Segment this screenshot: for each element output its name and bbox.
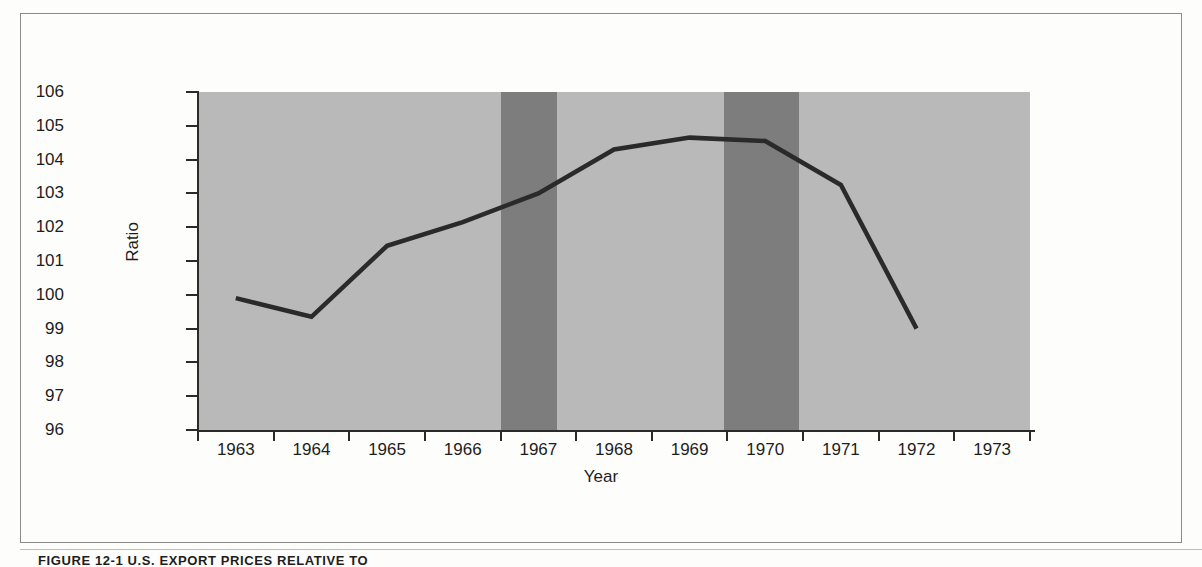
chart-figure: 96979899100101102103104105106 1963196419… xyxy=(0,0,1202,567)
caption-divider xyxy=(20,549,1202,550)
data-line-svg xyxy=(0,0,1202,567)
series-polyline xyxy=(236,138,917,329)
figure-caption: FIGURE 12-1 U.S. EXPORT PRICES RELATIVE … xyxy=(38,553,368,567)
